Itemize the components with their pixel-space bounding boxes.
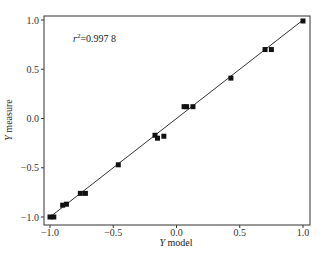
y-tick-label: 1.0 [27,15,40,26]
data-point [184,104,189,109]
data-point [228,76,233,81]
data-point [155,136,160,141]
data-point [51,215,56,220]
data-point [269,47,274,52]
x-axis-title: Y model [159,237,192,248]
data-point [83,191,88,196]
data-point [64,202,69,207]
data-point [161,134,166,139]
y-tick-label: −0.5 [21,162,39,173]
y-tick-label: −1.0 [21,212,39,223]
data-point [116,162,121,167]
scatter-chart: 1.00.50.0−0.5−1.0 −1.0−0.50.00.51.0 r2=0… [0,0,322,257]
data-point [263,47,268,52]
y-tick-label: 0.0 [27,113,40,124]
data-point [190,104,195,109]
y-tick-label: 0.5 [27,64,40,75]
x-tick-label: −1.0 [41,227,59,238]
data-point [301,18,306,23]
x-tick-label: 0.5 [234,227,247,238]
y-axis-title: Y measure [3,99,14,141]
data-point [78,191,83,196]
r-squared-annotation: r2=0.997 8 [73,32,116,44]
y-axis-ticks: 1.00.50.0−0.5−1.0 [21,15,44,223]
x-tick-label: −0.5 [104,227,122,238]
x-tick-label: 1.0 [297,227,310,238]
